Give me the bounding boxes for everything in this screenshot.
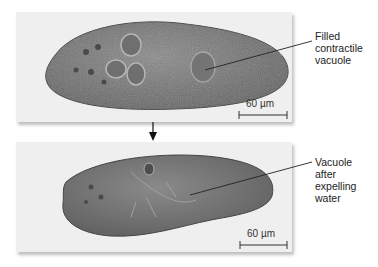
label-line: vacuole	[315, 54, 363, 66]
down-arrow-icon	[149, 122, 157, 141]
label-line: expelling	[315, 180, 356, 192]
label-line: Filled	[315, 30, 363, 42]
label-line: after	[315, 168, 356, 180]
label-line: water	[315, 192, 356, 204]
label-filled-contractile-vacuole: Filled contractile vacuole	[315, 30, 363, 66]
label-vacuole-after-expelling: Vacuole after expelling water	[315, 156, 356, 204]
leader-line-filled	[205, 41, 312, 70]
label-line: Vacuole	[315, 156, 356, 168]
label-line: contractile	[315, 42, 363, 54]
leader-line-expelled	[190, 162, 312, 195]
